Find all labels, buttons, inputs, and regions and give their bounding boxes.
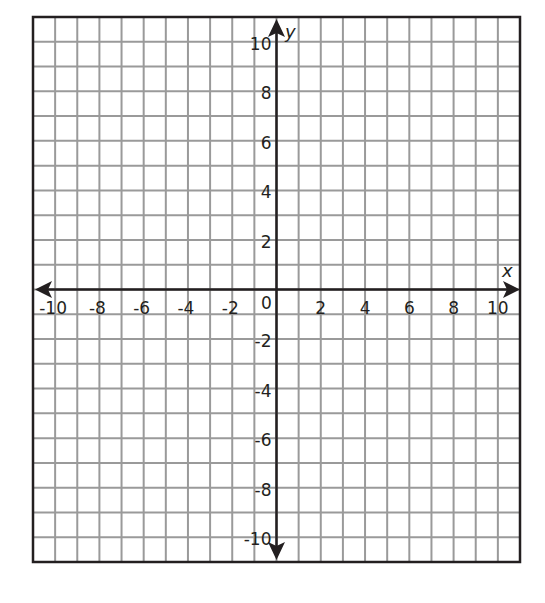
- y-tick-labels: 108642-2-4-6-8-10: [244, 34, 272, 549]
- y-tick-label: -8: [255, 480, 272, 500]
- x-tick-label: 8: [448, 298, 459, 318]
- y-tick-label: 6: [261, 133, 272, 153]
- x-tick-label: -10: [39, 298, 67, 318]
- x-tick-label: -6: [133, 298, 150, 318]
- origin-label: 0: [261, 293, 272, 313]
- coordinate-plane: x y 0 -10-8-6-4-2246810 108642-2-4-6-8-1…: [0, 0, 545, 603]
- x-tick-label: -2: [222, 298, 239, 318]
- y-tick-label: -10: [244, 529, 272, 549]
- y-tick-label: 8: [261, 83, 272, 103]
- y-tick-label: 10: [250, 34, 272, 54]
- y-tick-label: -2: [255, 331, 272, 351]
- y-tick-label: -4: [255, 381, 272, 401]
- y-tick-label: 2: [261, 232, 272, 252]
- x-tick-label: -4: [177, 298, 194, 318]
- x-axis-label: x: [501, 260, 513, 281]
- x-tick-label: 10: [487, 298, 509, 318]
- y-tick-label: -6: [255, 430, 272, 450]
- x-tick-label: 6: [404, 298, 415, 318]
- y-axis-label: y: [284, 21, 296, 42]
- x-tick-label: -8: [89, 298, 106, 318]
- y-tick-label: 4: [261, 182, 272, 202]
- x-tick-label: 2: [315, 298, 326, 318]
- x-tick-label: 4: [360, 298, 371, 318]
